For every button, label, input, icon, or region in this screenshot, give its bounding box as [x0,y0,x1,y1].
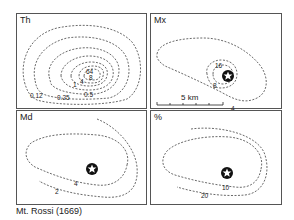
label-16: 16 [215,62,223,69]
panel-md: Md 4 2 [16,110,147,205]
label-1: 1 [73,81,77,88]
label-0.5: 0.5 [84,91,93,98]
label-8: 8 [89,74,93,81]
contour-map-mx: 16 8 4 5 km [151,14,283,110]
contour-map-th: 64 8 4 1 0.5 0.25 0.12 [17,14,148,110]
label-10: 10 [222,184,230,191]
label-20: 20 [201,192,209,199]
star-icon [86,163,98,175]
contour-map-percent: 10 20 [151,111,283,206]
scale-bar [157,102,223,105]
star-icon [221,167,233,179]
label-2: 2 [55,188,59,195]
figure-caption: Mt. Rossi (1669) [16,206,82,216]
panel-percent: % 10 20 [150,110,282,205]
label-0.12: 0.12 [30,92,43,99]
contour-map-md: 4 2 [17,111,148,206]
panel-mx: Mx 16 8 4 5 km [150,13,282,109]
label-4: 4 [74,180,78,187]
label-0.25: 0.25 [57,94,70,101]
panel-th: Th 64 8 4 1 0.5 0.25 0.12 [16,13,147,109]
label-8: 8 [213,82,217,89]
scale-bar-label: 5 km [181,93,199,102]
label-4: 4 [80,78,84,85]
star-icon [222,70,234,82]
